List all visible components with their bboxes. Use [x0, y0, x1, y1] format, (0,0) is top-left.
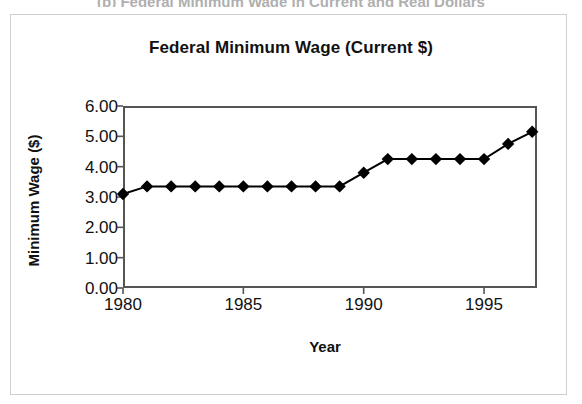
data-point-marker [382, 153, 394, 165]
x-tick-label: 1985 [208, 296, 278, 313]
axis-tick-marks [117, 106, 484, 294]
data-point-marker [117, 188, 129, 200]
data-point-marker [478, 153, 490, 165]
data-point-marker [333, 180, 345, 192]
data-point-marker [141, 180, 153, 192]
data-point-marker [454, 153, 466, 165]
data-point-marker [357, 167, 369, 179]
series-line [123, 132, 532, 194]
data-point-marker [526, 126, 538, 138]
data-point-marker [309, 180, 321, 192]
data-point-marker [261, 180, 273, 192]
data-series-layer [117, 126, 539, 201]
x-axis-tick-labels: 1980198519901995 [0, 296, 582, 320]
data-point-marker [237, 180, 249, 192]
data-point-marker [213, 180, 225, 192]
data-point-marker [502, 138, 514, 150]
data-point-marker [285, 180, 297, 192]
data-point-marker [189, 180, 201, 192]
x-tick-label: 1980 [88, 296, 158, 313]
x-tick-label: 1990 [329, 296, 399, 313]
data-point-marker [165, 180, 177, 192]
data-point-marker [430, 153, 442, 165]
x-tick-label: 1995 [449, 296, 519, 313]
data-point-marker [406, 153, 418, 165]
x-axis-title: Year [245, 338, 405, 355]
